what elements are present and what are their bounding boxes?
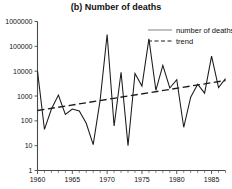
x-tick-label: 1985 xyxy=(204,176,220,183)
legend-label-2: trend xyxy=(176,37,193,46)
x-tick-label: 1975 xyxy=(134,176,150,183)
y-tick-label: 1000 xyxy=(17,93,33,100)
y-tick-label: 100000 xyxy=(9,43,32,50)
y-tick-label: 10000 xyxy=(13,68,33,75)
legend-label-1: number of deaths xyxy=(176,26,232,35)
x-tick-label: 1960 xyxy=(30,176,46,183)
y-tick-label: 100 xyxy=(21,117,33,124)
deaths-series-path xyxy=(38,34,226,145)
y-tick-label: 10 xyxy=(25,142,33,149)
y-tick-label: 1 xyxy=(29,167,33,174)
y-tick-label: 1000000 xyxy=(5,18,32,25)
x-tick-label: 1970 xyxy=(99,176,115,183)
x-tick-label: 1980 xyxy=(169,176,185,183)
chart-figure: (b) Number of deaths 1101001000100001000… xyxy=(0,0,232,189)
x-tick-label: 1965 xyxy=(65,176,81,183)
chart-plot-area: 1101001000100001000001000000196019651970… xyxy=(0,0,232,189)
